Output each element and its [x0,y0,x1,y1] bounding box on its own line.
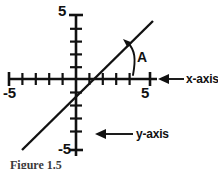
x-axis-callout [158,74,184,84]
y-axis-bottom-tick-label: -5 [58,141,71,156]
x-axis-callout-arrowhead [158,74,169,84]
plotted-line [22,21,153,150]
angle-label: A [137,50,147,64]
angle-arc-annotation [123,39,135,75]
x-axis-group [8,72,157,86]
x-axis-left-tick-label: -5 [3,85,16,100]
y-axis-top-tick-label: 5 [58,3,66,18]
y-axis-callout [95,129,133,139]
figure-caption: Figure 1.5 [10,159,62,169]
y-axis-group [69,14,83,156]
x-axis-right-tick-label: 5 [141,85,149,100]
x-axis-name-label: x-axis [186,73,218,85]
angle-arc-path [128,43,135,75]
figure-container: 5 -5 5 -5 A x-axis y-axis Figure 1.5 [0,0,218,169]
y-axis-name-label: y-axis [136,128,169,140]
y-axis-callout-arrowhead [95,129,106,139]
